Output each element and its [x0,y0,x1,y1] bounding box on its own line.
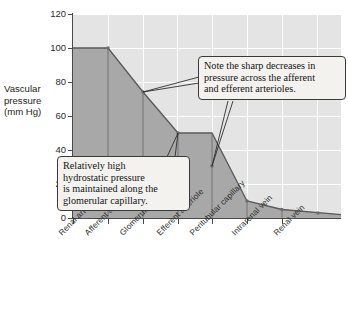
data-point-intrarenal-vein [280,208,283,211]
annotation-glomerular-plateau-line-3: is maintained along the [63,183,184,195]
y-tick-mark-100 [68,48,73,49]
vascular-pressure-figure: 120 100 80 60 40 20 0 Vascular pressure … [0,0,348,310]
annotation-glomerular-plateau-line-1: Relatively high [63,160,184,172]
annotation-sharp-decrease: Note the sharp decreases in pressure acr… [198,56,346,100]
annotation-sharp-decrease-line-1: Note the sharp decreases in [204,60,340,72]
y-axis-title: Vascular pressure (mm Hg) [4,83,66,118]
y-tick-mark-40 [68,150,73,151]
y-axis-title-line-1: Vascular [4,83,66,95]
y-tick-mark-60 [68,116,73,117]
data-point-renal-vein [316,211,319,214]
annotation-glomerular-plateau: Relatively high hydrostatic pressure is … [57,156,190,211]
y-tick-label-120: 120 [50,9,66,19]
annotation-glomerular-plateau-line-4: glomerular capillary. [63,195,184,207]
data-point-peritubular-capillary [245,199,248,202]
annotation-sharp-decrease-line-3: and efferent arterioles. [204,83,340,95]
y-tick-mark-120 [68,14,73,15]
x-tick-mark-2 [108,219,109,224]
y-tick-label-100: 100 [50,43,66,53]
y-tick-mark-80 [68,82,73,83]
y-tick-label-40: 40 [55,145,66,155]
annotation-glomerular-plateau-line-2: hydrostatic pressure [63,172,184,184]
x-tick-mark-3 [143,219,144,224]
x-tick-mark-5 [212,219,213,224]
y-axis-title-line-2: pressure [4,95,66,107]
y-axis-title-line-3: (mm Hg) [4,106,66,118]
data-point-renal-artery [106,46,109,49]
annotation-sharp-decrease-line-2: pressure across the afferent [204,72,340,84]
